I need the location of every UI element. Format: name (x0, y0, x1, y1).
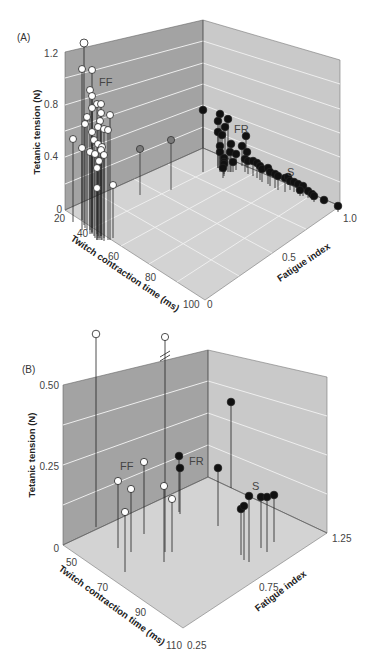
panel-b-z-tick-0-50: 0.50 (40, 380, 60, 391)
panel-b: (B) 0.50 0.25 0 Tetanic tension (N) 50 7… (22, 330, 352, 651)
panel-a-z-tick-0-8: 0.8 (44, 99, 58, 110)
panel-b-y-tick-1-25: 1.25 (332, 533, 352, 544)
panel-b-x-tick-110: 110 (166, 640, 182, 651)
panel-a-label: (A) (17, 32, 30, 43)
panel-a-x-tick-20: 20 (54, 213, 66, 224)
figure: (A) 1.2 0.8 0.4 0 Tetanic tension (N) 20… (0, 0, 373, 664)
panel-b-group-fr: FR (189, 455, 204, 467)
panel-b-group-ff: FF (120, 460, 134, 472)
panel-b-label: (B) (22, 364, 35, 375)
panel-a-y-tick-1-0: 1.0 (343, 213, 357, 224)
panel-b-group-s: S (252, 480, 259, 492)
panel-a-x-tick-100: 100 (183, 299, 200, 310)
panel-a-y-tick-0: 0 (207, 299, 213, 310)
panel-a-z-tick-1-2: 1.2 (44, 48, 58, 59)
panel-a-z-axis-title: Tetanic tension (N) (31, 90, 42, 175)
panel-a-group-s: S (287, 166, 294, 178)
panel-a-group-fr: FR (234, 123, 249, 135)
panel-b-z-tick-0: 0 (53, 543, 59, 554)
panel-a: (A) 1.2 0.8 0.4 0 Tetanic tension (N) 20… (17, 20, 357, 314)
panel-a-group-ff: FF (99, 76, 113, 88)
panel-b-z-tick-0-25: 0.25 (40, 461, 60, 472)
panel-b-z-axis-title: Tetanic tension (N) (26, 413, 37, 498)
panel-a-z-tick-0-4: 0.4 (44, 151, 58, 162)
panel-b-y-tick-0-25: 0.25 (187, 640, 207, 651)
